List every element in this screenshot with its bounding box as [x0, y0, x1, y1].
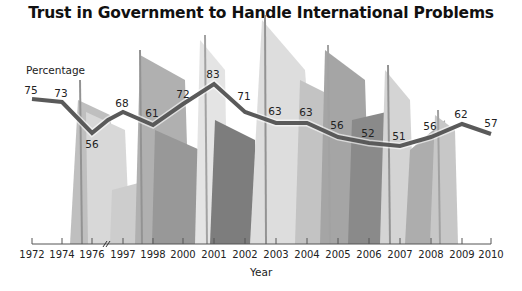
x-tick-label: 2006	[356, 249, 381, 260]
data-label: 52	[361, 127, 374, 139]
x-tick-label: 2005	[325, 249, 350, 260]
data-label: 75	[24, 84, 37, 96]
x-tick-label: 1974	[49, 249, 74, 260]
data-label: 73	[54, 87, 67, 99]
data-label: 56	[423, 120, 436, 132]
y-axis-label: Percentage	[26, 64, 85, 76]
data-label: 62	[454, 108, 467, 120]
x-tick-label: 2001	[201, 249, 226, 260]
x-tick-label: 2008	[418, 249, 443, 260]
data-label: 72	[176, 88, 189, 100]
data-label: 68	[115, 97, 128, 109]
x-tick-label: 2010	[478, 249, 503, 260]
x-tick-label: 2003	[263, 249, 288, 260]
data-label: 63	[299, 106, 312, 118]
x-axis-label: Year	[250, 266, 272, 278]
x-tick-label: 2000	[170, 249, 195, 260]
x-tick-label: 2007	[387, 249, 412, 260]
x-tick-label: 2004	[294, 249, 319, 260]
data-label: 51	[392, 130, 405, 142]
chart-root: Trust in Government to Handle Internatio…	[0, 0, 522, 291]
data-label: 63	[268, 105, 281, 117]
data-label: 57	[484, 117, 497, 129]
data-label: 83	[206, 68, 219, 80]
data-label: 61	[145, 107, 158, 119]
x-tick-label: 1997	[110, 249, 135, 260]
data-label: 71	[237, 90, 250, 102]
x-tick-label: 2002	[232, 249, 257, 260]
x-tick-label: 1976	[79, 249, 104, 260]
x-tick-label: 1998	[140, 249, 165, 260]
x-tick-label: 1972	[19, 249, 44, 260]
data-label: 56	[330, 119, 343, 131]
data-label: 56	[85, 138, 98, 150]
x-tick-label: 2009	[449, 249, 474, 260]
chart-canvas	[0, 0, 522, 291]
